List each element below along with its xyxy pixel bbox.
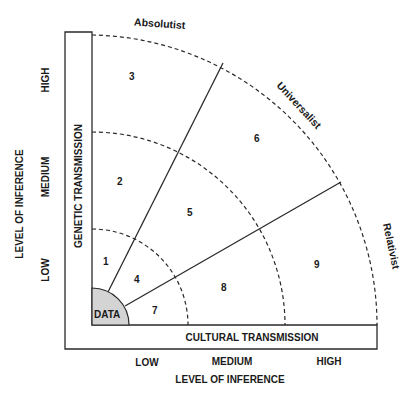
- region-7: 7: [152, 305, 158, 316]
- region-1: 1: [103, 256, 109, 267]
- vertical-tick-medium: MEDIUM: [40, 157, 51, 198]
- horizontal-tick-high: HIGH: [317, 356, 342, 367]
- horizontal-tick-medium: MEDIUM: [212, 356, 253, 367]
- absolutist-label: Absolutist: [134, 16, 187, 32]
- divider-absolutist-universalist: [108, 63, 223, 292]
- horizontal-tick-low: LOW: [135, 357, 159, 368]
- divider-universalist-relativist: [125, 182, 341, 306]
- region-8: 8: [221, 282, 227, 293]
- vertical-tick-low: LOW: [40, 258, 51, 282]
- region-9: 9: [314, 259, 320, 270]
- region-5: 5: [187, 207, 193, 218]
- region-3: 3: [129, 71, 135, 82]
- region-4: 4: [134, 274, 140, 285]
- region-6: 6: [254, 133, 260, 144]
- genetic-transmission-label: GENETIC TRANSMISSION: [73, 124, 84, 248]
- horizontal-axis-title: LEVEL OF INFERENCE: [175, 374, 285, 385]
- data-label: DATA: [94, 309, 120, 320]
- relativist-label: Relativist: [381, 222, 403, 271]
- arc-medium: [92, 132, 285, 325]
- region-2: 2: [117, 176, 123, 187]
- vertical-axis-title: LEVEL OF INFERENCE: [14, 149, 25, 259]
- universalist-label: Universalist: [275, 79, 325, 131]
- cultural-transmission-label: CULTURAL TRANSMISSION: [186, 332, 319, 343]
- inference-diagram: DATA 1 2 3 4 5 6 7 8 9 Absolutist Univer…: [0, 0, 414, 400]
- vertical-tick-high: HIGH: [40, 68, 51, 93]
